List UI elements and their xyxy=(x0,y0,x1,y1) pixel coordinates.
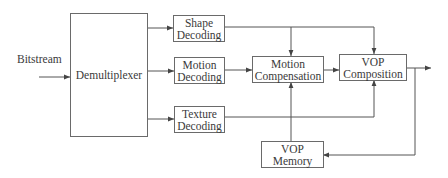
motion-decoding-line2: Decoding xyxy=(177,71,222,83)
motion-decoding-line1: Motion xyxy=(177,59,222,71)
vop-memory-line2: Memory xyxy=(273,155,313,167)
texture-decoding-line1: Texture xyxy=(177,108,222,120)
decoder-block-diagram: Bitstream Demultiplexer ShapeDecoding Mo… xyxy=(0,0,448,178)
demultiplexer-label: Demultiplexer xyxy=(76,69,142,81)
vop-composition-line1: VOP xyxy=(343,56,402,68)
texture-decoding-line2: Decoding xyxy=(177,120,222,132)
motion-compensation-line2: Compensation xyxy=(255,70,321,82)
bitstream-label: Bitstream xyxy=(17,53,62,65)
demultiplexer-block: Demultiplexer xyxy=(70,13,148,137)
vop-memory-block: VOPMemory xyxy=(261,141,324,168)
vop-composition-block: VOPComposition xyxy=(339,54,407,81)
texture-decoding-block: TextureDecoding xyxy=(174,106,225,133)
motion-decoding-block: MotionDecoding xyxy=(174,57,225,84)
motion-compensation-line1: Motion xyxy=(255,58,321,70)
motion-compensation-block: MotionCompensation xyxy=(252,56,324,83)
shape-decoding-line1: Shape xyxy=(177,17,222,29)
shape-decoding-block: ShapeDecoding xyxy=(173,15,225,42)
vop-memory-line1: VOP xyxy=(273,143,313,155)
shape-decoding-line2: Decoding xyxy=(177,29,222,41)
vop-composition-line2: Composition xyxy=(343,68,402,80)
